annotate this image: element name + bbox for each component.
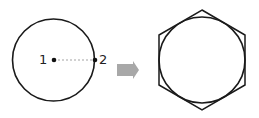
edge-point-2 (93, 58, 98, 63)
circle-with-radius (13, 19, 98, 101)
hexagon-outline (159, 10, 245, 110)
point-2-label: 2 (99, 53, 107, 66)
inscribed-circle (159, 17, 245, 103)
point-1-label: 1 (39, 53, 47, 66)
hexagon-with-circle (159, 10, 245, 110)
center-point-1 (52, 58, 57, 63)
right-arrow-icon (117, 61, 139, 79)
